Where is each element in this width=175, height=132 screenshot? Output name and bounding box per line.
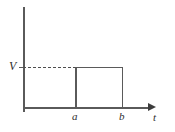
x-axis-line [23, 107, 152, 109]
pulse-top-edge [75, 67, 123, 69]
voltage-pulse-diagram: V a b t [0, 0, 175, 132]
pulse-rising-edge [75, 67, 77, 109]
x-tick-label-a: a [72, 111, 78, 122]
x-tick-label-b: b [119, 111, 125, 122]
y-axis-label: V [9, 60, 16, 72]
y-axis-line [23, 7, 25, 112]
dashed-level-guide [23, 67, 76, 68]
pulse-falling-edge [122, 67, 124, 109]
arrow-right-icon [148, 103, 156, 111]
x-axis-label: t [153, 112, 156, 123]
